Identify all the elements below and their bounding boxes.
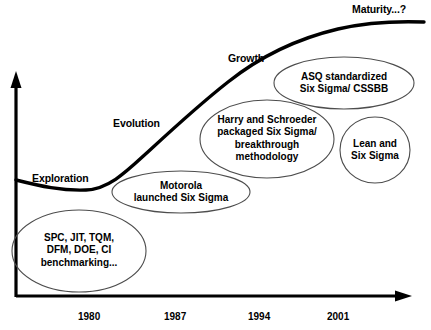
six-sigma-evolution-figure: Exploration Evolution Growth Maturity...… <box>0 0 431 330</box>
x-tick-1980: 1980 <box>78 311 100 322</box>
x-tick-2001: 2001 <box>327 311 349 322</box>
x-tick-1994: 1994 <box>248 311 270 322</box>
curve-label-exploration: Exploration <box>32 172 89 184</box>
curve-label-evolution: Evolution <box>113 117 160 129</box>
curve-label-maturity: Maturity...? <box>352 3 406 15</box>
bubble-foundations-label: SPC, JIT, TQM, DFM, DOE, CI benchmarking… <box>12 232 146 269</box>
figure-text-layer: Exploration Evolution Growth Maturity...… <box>0 0 431 330</box>
bubble-motorola-label: Motorola launched Six Sigma <box>112 180 250 205</box>
x-tick-1987: 1987 <box>164 311 186 322</box>
bubble-asq-label: ASQ standardized Six Sigma/ CSSBB <box>274 71 414 96</box>
curve-label-growth: Growth <box>228 52 264 64</box>
bubble-lean-label: Lean and Six Sigma <box>340 138 410 163</box>
bubble-harry-schroeder-label: Harry and Schroeder packaged Six Sigma/ … <box>200 114 334 164</box>
